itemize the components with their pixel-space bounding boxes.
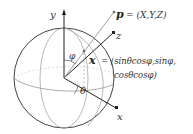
theta-arc	[74, 86, 78, 94]
x-axis	[64, 78, 116, 108]
y-axis-label: y	[49, 9, 56, 20]
point-p-equation: = (X,Y,Z)	[126, 10, 167, 20]
x-axis-end-marker	[115, 106, 118, 109]
direction-equation-line1: = (sinθcosφ,sinφ,	[101, 56, 176, 66]
phi-label: φ	[69, 51, 76, 61]
ray-to-p	[64, 12, 114, 78]
meridian-tilted	[64, 28, 103, 126]
point-p-label: p	[116, 8, 124, 21]
x-axis-label: x	[117, 111, 123, 122]
point-p-marker	[113, 11, 116, 14]
direction-equation-line2: cosθcosφ)	[114, 70, 157, 80]
spherical-coordinates-diagram: y z x φ θ p = (X,Y,Z) x = (sinθcosφ,sinφ…	[0, 0, 193, 134]
direction-x-label: x	[88, 54, 96, 67]
y-axis-arrow-icon	[62, 9, 66, 15]
direction-x-marker	[83, 50, 86, 53]
theta-label: θ	[80, 85, 86, 96]
z-axis-label: z	[115, 30, 122, 41]
z-axis-end-marker	[112, 31, 115, 34]
equator	[14, 78, 114, 91]
